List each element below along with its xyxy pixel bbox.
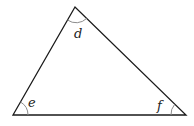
triangle-diagram: d e f — [0, 0, 194, 126]
angle-label-e: e — [28, 95, 36, 110]
angle-label-f: f — [156, 98, 164, 113]
angle-arc-f — [171, 105, 175, 115]
angle-arc-d — [68, 19, 87, 23]
angle-label-d: d — [74, 26, 82, 41]
angle-arc-e — [21, 102, 29, 115]
